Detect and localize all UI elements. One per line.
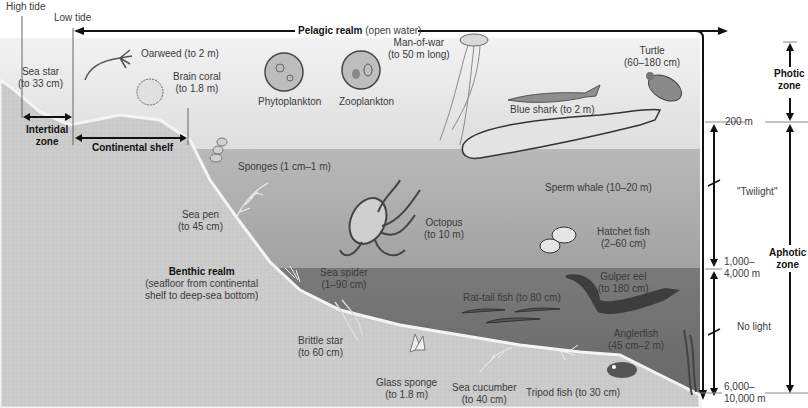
high-tide-label: High tide: [6, 1, 45, 13]
depth-1000m-label: 1,000–4,000 m: [724, 256, 760, 280]
sea-spider-label: Sea spider(1–90 cm): [320, 267, 368, 291]
gulper-eel-label: Gulper eel(to 180 cm): [598, 271, 649, 295]
benthic-realm-label: Benthic realm (seafloor from continental…: [145, 266, 258, 302]
tripod-fish-label: Tripod fish (to 30 cm): [526, 387, 620, 399]
man-of-war-label: Man-of-war(to 50 m long): [388, 37, 450, 61]
phytoplankton-label: Phytoplankton: [258, 96, 321, 108]
anglerfish-label: Anglerfish(45 cm–2 m): [608, 328, 664, 352]
octopus-label: Octopus(to 10 m): [424, 217, 464, 241]
hatchet-fish-label: Hatchet fish(2–60 cm): [597, 226, 650, 250]
phytoplankton-icon: [265, 53, 303, 91]
anglerfish-icon: [607, 362, 637, 378]
brain-coral-label: Brain coral(to 1.8 m): [173, 71, 221, 95]
pelagic-realm-note: (open water): [365, 25, 421, 36]
zooplankton-icon: [342, 51, 380, 89]
brittle-star-label: Brittle star(to 60 cm): [298, 335, 343, 359]
blue-shark-label: Blue shark (to 2 m): [510, 104, 594, 116]
intertidal-zone-label: Intertidalzone: [26, 124, 68, 148]
photic-zone-label: Photiczone: [774, 68, 805, 92]
twilight-label: "Twilight": [737, 186, 777, 198]
glass-sponge-label: Glass sponge(to 1.8 m): [376, 377, 437, 401]
brain-coral-icon: [137, 79, 163, 105]
no-light-label: No light: [737, 321, 771, 333]
pelagic-realm-name: Pelagic realm: [298, 25, 362, 36]
pelagic-realm-label: Pelagic realm (open water): [298, 25, 421, 37]
rat-tail-fish-label: Rat-tail fish (to 80 cm): [463, 292, 561, 304]
sea-pen-label: Sea pen(to 45 cm): [178, 209, 223, 233]
ocean-scene: [0, 0, 808, 408]
zooplankton-label: Zooplankton: [339, 96, 394, 108]
low-tide-label: Low tide: [54, 12, 91, 24]
aphotic-zone-label: Aphoticzone: [769, 247, 806, 271]
sea-star-label: Sea star(to 33 cm): [18, 66, 63, 90]
sponges-label: Sponges (1 cm–1 m): [238, 161, 331, 173]
pelagic-arrow-right-head: [718, 27, 728, 35]
depth-200m-label: 200 m: [725, 116, 753, 128]
pelagic-arrow-left-head: [74, 27, 84, 35]
depth-6000m-label: 6,000–10,000 m: [724, 381, 766, 405]
sea-cucumber-label: Sea cucumber(to 40 cm): [452, 382, 516, 406]
sperm-whale-label: Sperm whale (10–20 m): [545, 182, 652, 194]
continental-shelf-label: Continental shelf: [92, 142, 173, 154]
turtle-label: Turtle(60–180 cm): [624, 45, 680, 69]
oarweed-label: Oarweed (to 2 m): [141, 48, 219, 60]
